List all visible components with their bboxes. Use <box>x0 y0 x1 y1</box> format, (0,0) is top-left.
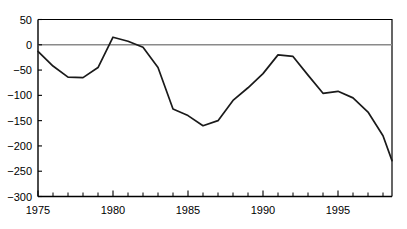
y-tick-label: −150 <box>7 115 32 127</box>
line-chart: 500−50−100−150−200−250−30019751980198519… <box>0 0 407 229</box>
y-tick-label: −100 <box>7 89 32 101</box>
x-tick-label: 1995 <box>326 204 350 216</box>
y-tick-label: −250 <box>7 165 32 177</box>
x-tick-label: 1975 <box>26 204 50 216</box>
y-tick-label: −300 <box>7 191 32 203</box>
x-tick-label: 1990 <box>251 204 275 216</box>
y-tick-label: 50 <box>20 14 32 26</box>
chart-canvas: 500−50−100−150−200−250−30019751980198519… <box>0 0 407 229</box>
y-tick-label: −50 <box>13 64 32 76</box>
x-tick-label: 1980 <box>101 204 125 216</box>
x-tick-label: 1985 <box>176 204 200 216</box>
y-tick-label: 0 <box>26 39 32 51</box>
y-tick-label: −200 <box>7 140 32 152</box>
